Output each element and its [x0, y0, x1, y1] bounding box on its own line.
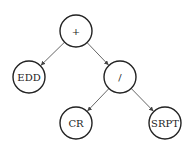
node-divide-operator: / — [104, 61, 136, 93]
nodes: + EDD / CR SRPT — [13, 15, 181, 139]
expression-tree-diagram: + EDD / CR SRPT — [0, 0, 193, 150]
node-label: + — [72, 26, 80, 37]
edge-div-to-srpt — [131, 88, 153, 111]
node-srpt: SRPT — [149, 107, 181, 139]
node-label: EDD — [17, 72, 40, 83]
node-edd: EDD — [13, 61, 45, 93]
node-label: CR — [68, 118, 84, 129]
edge-plus-to-edd — [41, 42, 65, 65]
node-plus-operator: + — [60, 15, 92, 47]
node-cr: CR — [60, 107, 92, 139]
edge-div-to-cr — [87, 89, 109, 112]
edge-plus-to-div — [87, 43, 109, 66]
node-label: SRPT — [151, 118, 179, 129]
